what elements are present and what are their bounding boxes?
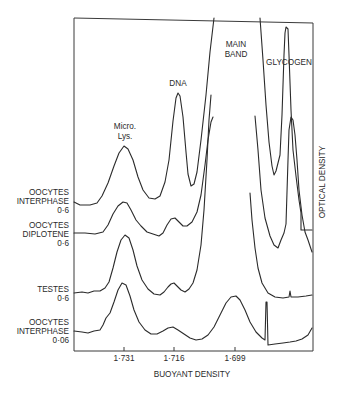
annotation-main-band-line1: MAIN	[226, 40, 247, 49]
series-label-testes-0-6: TESTES 0·6	[37, 285, 69, 303]
curve-oocytes-diplotene-0-6	[74, 116, 312, 252]
svg-text:0·6: 0·6	[57, 206, 69, 215]
svg-text:OOCYTES: OOCYTES	[29, 188, 70, 197]
svg-text:0·6: 0·6	[57, 239, 69, 248]
x-tick-label-1716: 1·716	[164, 354, 185, 363]
curve-testes-0-6	[74, 95, 312, 298]
svg-text:INTERPHASE: INTERPHASE	[17, 197, 70, 206]
svg-text:INTERPHASE: INTERPHASE	[17, 327, 70, 336]
svg-text:OOCYTES: OOCYTES	[29, 318, 70, 327]
annotation-main-band-line2: BAND	[225, 50, 248, 59]
x-axis-label: BUOYANT DENSITY	[154, 370, 231, 379]
svg-text:OOCYTES: OOCYTES	[29, 221, 70, 230]
annotation-micro-lys-line1: Micro.	[114, 122, 136, 131]
x-tick-label-1731: 1·731	[114, 354, 135, 363]
svg-text:TESTES: TESTES	[37, 285, 69, 294]
svg-text:DIPLOTENE: DIPLOTENE	[23, 230, 70, 239]
svg-text:0·6: 0·6	[57, 294, 69, 303]
svg-text:0·06: 0·06	[53, 336, 70, 345]
x-tick-label-1699: 1·699	[225, 354, 246, 363]
curve-oocytes-interphase-0-6	[74, 18, 312, 230]
y-axis-label: OPTICAL DENSITY	[318, 145, 327, 218]
series-label-oocytes-interphase-0-6: OOCYTES INTERPHASE 0·6	[17, 188, 70, 215]
annotation-micro-lys-line2: Lys.	[118, 132, 133, 141]
annotation-dna: DNA	[169, 79, 187, 88]
annotation-glycogen: GLYCOGEN	[266, 58, 312, 67]
buoyant-density-chart: Micro. Lys. DNA MAIN BAND GLYCOGEN OOCYT…	[0, 0, 342, 397]
curve-oocytes-interphase-0-06	[74, 283, 312, 345]
series-label-oocytes-interphase-0-06: OOCYTES INTERPHASE 0·06	[17, 318, 70, 345]
series-label-oocytes-diplotene-0-6: OOCYTES DIPLOTENE 0·6	[23, 221, 70, 248]
